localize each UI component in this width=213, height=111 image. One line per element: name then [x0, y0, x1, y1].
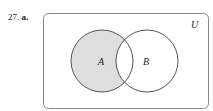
set-b-label: B	[143, 56, 149, 67]
universe-label: U	[191, 19, 199, 30]
universe-rectangle	[44, 14, 209, 109]
set-a-label: A	[97, 56, 105, 67]
venn-diagram: A B U	[0, 0, 213, 111]
